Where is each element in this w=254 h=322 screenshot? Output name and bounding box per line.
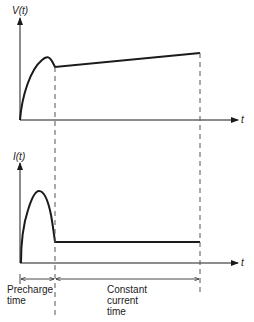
v-axis-label: V(t) — [12, 5, 28, 16]
precharge-label-line2: time — [7, 295, 26, 306]
v-plot-axes — [20, 18, 238, 120]
constant-label-line3: time — [107, 306, 126, 317]
v-t-axis-label: t — [241, 114, 244, 125]
constant-label-line1: Constant — [107, 284, 147, 295]
constant-label-line2: current — [107, 295, 138, 306]
i-plot-axes — [20, 163, 238, 263]
current-curve — [21, 191, 200, 263]
i-axis-label: I(t) — [13, 151, 25, 162]
i-t-axis-label: t — [241, 257, 244, 268]
voltage-curve — [20, 53, 200, 120]
precharge-label-line1: Precharge — [7, 284, 53, 295]
diagram-canvas — [0, 0, 254, 322]
